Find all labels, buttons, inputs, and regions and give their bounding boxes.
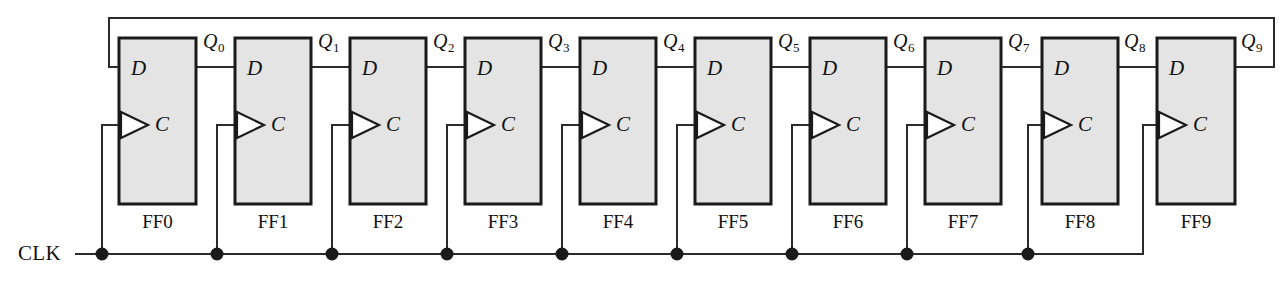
clk-branch-ff0 (102, 125, 119, 254)
ff2-q-subscript: 2 (448, 40, 455, 55)
ff6-c-label: C (846, 114, 860, 135)
ff8-q-letter: Q (1124, 30, 1138, 52)
ff6-q-output-label: Q6 (893, 31, 914, 51)
ff7-c-label: C (961, 114, 975, 135)
clk-junction-dot (901, 248, 914, 261)
ff1-name-label: FF1 (235, 212, 311, 231)
ff5-c-label: C (731, 114, 745, 135)
ff4-q-output-label: Q4 (663, 31, 684, 51)
ff1-q-output-label: Q1 (318, 31, 339, 51)
ff2-q-letter: Q (433, 30, 447, 52)
ff8-q-subscript: 8 (1139, 40, 1146, 55)
clk-junction-dot (441, 248, 454, 261)
ff1-d-label: D (247, 58, 262, 79)
clk-junction-dot (211, 248, 224, 261)
ff5-name-label: FF5 (695, 212, 771, 231)
clk-junction-dot (556, 248, 569, 261)
ff4-name-label: FF4 (580, 212, 656, 231)
clk-branch-ff6 (792, 125, 810, 254)
ff6-q-letter: Q (893, 30, 907, 52)
circuit-svg (0, 0, 1282, 290)
clk-junction-dot (326, 248, 339, 261)
ff2-d-label: D (362, 58, 377, 79)
ff7-q-subscript: 7 (1023, 40, 1030, 55)
clk-junction-dot (786, 248, 799, 261)
ff9-c-label: C (1193, 114, 1207, 135)
ff1-q-letter: Q (318, 30, 332, 52)
clk-branch-ff8 (1028, 125, 1042, 254)
ff3-q-subscript: 3 (563, 40, 570, 55)
clk-junction-dot (96, 248, 109, 261)
ff7-d-label: D (937, 58, 952, 79)
ff2-q-output-label: Q2 (433, 31, 454, 51)
ff6-q-subscript: 6 (908, 40, 915, 55)
ff4-d-label: D (592, 58, 607, 79)
ff9-q-letter: Q (1241, 30, 1255, 52)
clk-branch-ff5 (677, 125, 695, 254)
clk-branch-ff4 (562, 125, 580, 254)
ring-counter-diagram: CLK D C Q0 FF0 D C Q1 FF1 D C Q2 FF2 D C… (0, 0, 1282, 290)
clk-branch-ff9 (1143, 125, 1157, 254)
ff1-q-subscript: 1 (333, 40, 340, 55)
ff2-name-label: FF2 (350, 212, 426, 231)
ff5-d-label: D (707, 58, 722, 79)
clk-junction-dot (1022, 248, 1035, 261)
ff8-q-output-label: Q8 (1124, 31, 1145, 51)
ff0-q-output-label: Q0 (203, 31, 224, 51)
ff0-name-label: FF0 (119, 212, 196, 231)
ff4-c-label: C (616, 114, 630, 135)
ff9-name-label: FF9 (1157, 212, 1235, 231)
ff5-q-output-label: Q5 (778, 31, 799, 51)
ff0-c-label: C (155, 114, 169, 135)
ff7-q-output-label: Q7 (1008, 31, 1029, 51)
clk-branch-ff2 (332, 125, 350, 254)
clk-branch-ff3 (447, 125, 465, 254)
ff9-q-output-label: Q9 (1241, 31, 1262, 51)
ff8-c-label: C (1078, 114, 1092, 135)
ff5-q-letter: Q (778, 30, 792, 52)
ff3-name-label: FF3 (465, 212, 541, 231)
ff8-d-label: D (1054, 58, 1069, 79)
clk-branch-ff1 (217, 125, 235, 254)
ff3-q-letter: Q (548, 30, 562, 52)
clk-input-label: CLK (18, 243, 61, 264)
ff7-name-label: FF7 (925, 212, 1001, 231)
clk-branch-ff7 (907, 125, 925, 254)
clk-junction-dot (671, 248, 684, 261)
ff6-d-label: D (822, 58, 837, 79)
ff7-q-letter: Q (1008, 30, 1022, 52)
ff0-q-subscript: 0 (218, 40, 225, 55)
ff0-d-label: D (131, 58, 146, 79)
ff9-d-label: D (1169, 58, 1184, 79)
ff6-name-label: FF6 (810, 212, 886, 231)
ff3-q-output-label: Q3 (548, 31, 569, 51)
ff4-q-subscript: 4 (678, 40, 685, 55)
ff9-q-subscript: 9 (1256, 40, 1263, 55)
ff3-d-label: D (477, 58, 492, 79)
ff1-c-label: C (271, 114, 285, 135)
ff2-c-label: C (386, 114, 400, 135)
ff4-q-letter: Q (663, 30, 677, 52)
ff5-q-subscript: 5 (793, 40, 800, 55)
ff8-name-label: FF8 (1042, 212, 1118, 231)
ff0-q-letter: Q (203, 30, 217, 52)
ff3-c-label: C (501, 114, 515, 135)
